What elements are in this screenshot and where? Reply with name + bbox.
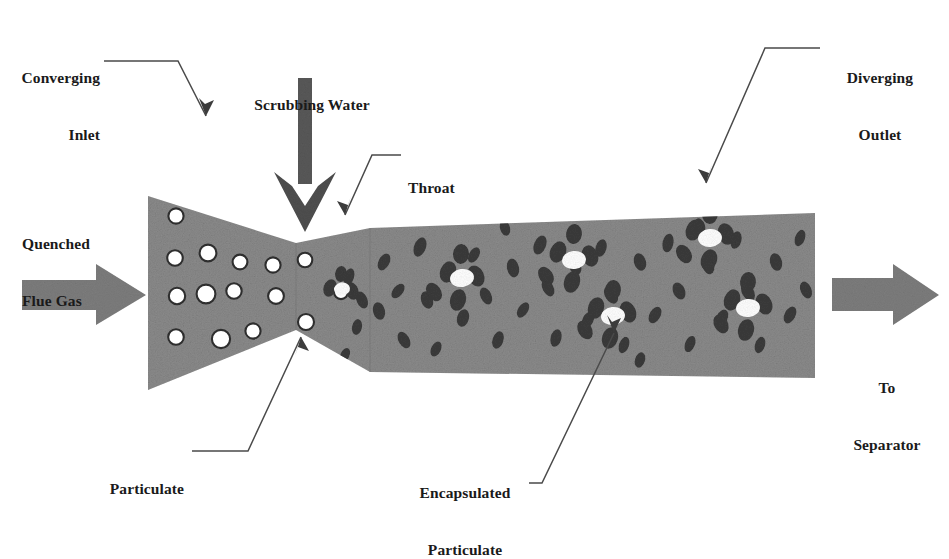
label-encapsulated-particulate-line1: Encapsulated <box>398 483 532 502</box>
particulate-dot <box>226 283 241 298</box>
leader-throat <box>345 155 401 215</box>
label-throat: Throat <box>408 140 498 235</box>
particulate-dot <box>268 288 284 304</box>
label-converging-inlet-line1: Converging <box>0 68 100 87</box>
label-diverging-outlet-line2: Outlet <box>824 125 936 144</box>
particulate-dot <box>212 330 230 348</box>
label-to-separator-line1: To <box>826 378 948 397</box>
label-converging-inlet: Converging Inlet <box>0 30 100 182</box>
label-to-separator-line2: Separator <box>826 435 948 454</box>
particulate-dot <box>298 253 313 268</box>
leader-diverging-outlet <box>706 48 820 183</box>
particulate-dot <box>169 288 185 304</box>
label-quenched-flue-gas-line2: Flue Gas <box>22 291 152 310</box>
particulate-dot <box>168 329 184 345</box>
label-to-separator: To Separator <box>826 340 948 492</box>
label-scrubbing-water: Scrubbing Water <box>232 57 392 152</box>
label-converging-inlet-line2: Inlet <box>0 125 100 144</box>
particulate-dot <box>167 250 183 266</box>
label-scrubbing-water-line1: Scrubbing Water <box>232 95 392 114</box>
particulate-dot <box>197 285 216 304</box>
label-diverging-outlet: Diverging Outlet <box>824 30 936 182</box>
label-diverging-outlet-line1: Diverging <box>824 68 936 87</box>
particulate-dot <box>200 245 217 262</box>
label-encapsulated-particulate: Encapsulated Particulate <box>398 445 532 559</box>
to-separator-arrow <box>832 264 939 325</box>
particulate-dot <box>298 314 314 330</box>
label-encapsulated-particulate-line2: Particulate <box>398 540 532 559</box>
leader-converging-inlet <box>104 61 206 116</box>
label-throat-line1: Throat <box>408 178 498 197</box>
label-particulate-line1: Particulate <box>62 479 184 498</box>
label-particulate: Particulate <box>62 441 184 536</box>
particulate-dot <box>265 257 280 272</box>
particulate-dot <box>245 323 260 338</box>
label-quenched-flue-gas: Quenched Flue Gas <box>22 196 152 348</box>
particulate-dot <box>168 208 183 223</box>
label-quenched-flue-gas-line1: Quenched <box>22 234 152 253</box>
particulate-dot <box>233 255 248 270</box>
